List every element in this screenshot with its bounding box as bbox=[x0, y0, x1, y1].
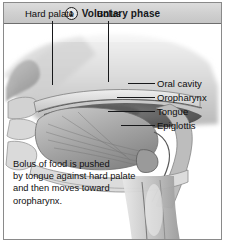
caption-line-2: by tongue against hard palate bbox=[13, 170, 161, 182]
figure-panel: 1 Voluntary phase bbox=[3, 2, 222, 240]
label-tongue: Tongue bbox=[157, 106, 188, 117]
caption-line-4: oropharynx. bbox=[13, 195, 161, 207]
leader-line-oral-cavity bbox=[128, 83, 155, 84]
figure-title: Voluntary phase bbox=[82, 8, 161, 19]
label-bolus: Bolus bbox=[97, 8, 121, 19]
anatomy-illustration bbox=[4, 24, 222, 240]
label-hard-palate: Hard palate bbox=[25, 8, 74, 19]
figure-caption: Bolus of food is pushed by tongue agains… bbox=[13, 158, 161, 207]
label-oral-cavity: Oral cavity bbox=[157, 78, 202, 89]
leader-line-epiglottis bbox=[121, 125, 155, 126]
leader-line-hard-palate bbox=[52, 21, 53, 85]
leader-line-oropharynx bbox=[117, 97, 155, 98]
leader-line-tongue bbox=[108, 111, 155, 112]
leader-line-bolus bbox=[108, 21, 109, 82]
caption-line-1: Bolus of food is pushed bbox=[13, 158, 161, 170]
label-epiglottis: Epiglottis bbox=[157, 120, 196, 131]
label-oropharynx: Oropharynx bbox=[157, 92, 207, 103]
caption-line-3: and then moves toward bbox=[13, 182, 161, 194]
